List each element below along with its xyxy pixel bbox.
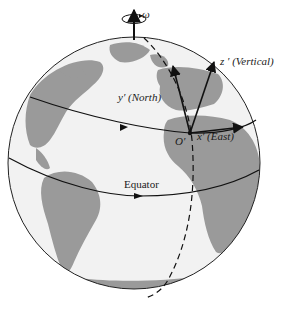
x-axis-label: x′ (East) — [196, 130, 234, 143]
origin-point — [188, 131, 192, 135]
earth-diagram: ω z ′ (Vertical) y′ (North) x′ (East) O′… — [0, 0, 283, 314]
y-axis-label: y′ (North) — [117, 91, 161, 104]
equator-label: Equator — [124, 178, 159, 190]
omega-label: ω — [142, 8, 150, 20]
z-axis-label: z ′ (Vertical) — [219, 55, 274, 68]
origin-label: O′ — [175, 135, 186, 147]
globe — [8, 37, 260, 294]
